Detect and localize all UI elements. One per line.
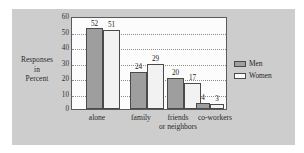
- x-category-friends-line-2: or neighbors: [155, 122, 201, 131]
- x-category-co-workers-line-1: co-workers: [191, 113, 239, 122]
- legend-item-women[interactable]: Women: [234, 71, 290, 81]
- value-label-women-alone: 51: [102, 22, 121, 29]
- y-tick-0: 0: [55, 106, 69, 113]
- bar-men-family[interactable]: [130, 72, 147, 109]
- bar-women-co-workers[interactable]: [210, 104, 224, 109]
- bar-men-co-workers[interactable]: [196, 103, 210, 109]
- bar-women-family[interactable]: [147, 64, 164, 109]
- y-tick-30: 30: [55, 61, 69, 68]
- plot-area: 52 51 24 29 20 17 4 3: [71, 17, 227, 110]
- y-tick-40: 40: [55, 45, 69, 52]
- legend-swatch-women-icon: [234, 73, 246, 79]
- chart-legend: Men Women: [234, 59, 290, 83]
- y-tick-20: 20: [55, 76, 69, 83]
- y-tick-10: 10: [55, 92, 69, 99]
- x-category-alone-line-1: alone: [75, 113, 119, 122]
- bar-men-friends-or-neighbors[interactable]: [167, 78, 184, 109]
- bar-group-co-workers: 4 3: [196, 18, 226, 109]
- y-axis-ticks: 60 50 40 30 20 10 0: [52, 17, 69, 110]
- legend-swatch-men-icon: [234, 61, 246, 67]
- y-tick-60: 60: [55, 14, 69, 21]
- legend-label-women: Women: [249, 72, 272, 80]
- y-tick-50: 50: [55, 30, 69, 37]
- legend-label-men: Men: [249, 60, 263, 68]
- bar-men-alone[interactable]: [86, 28, 103, 109]
- x-category-alone: alone: [75, 113, 119, 122]
- chart-figure: Responses in Percent 60 50 40 30 20 10 0…: [0, 0, 304, 153]
- value-label-women-co-workers: 3: [208, 96, 226, 103]
- value-label-men-family: 24: [129, 64, 148, 71]
- bar-women-alone[interactable]: [103, 30, 120, 109]
- bar-group-family: 24 29: [130, 18, 166, 109]
- value-label-women-family: 29: [146, 56, 165, 63]
- bar-group-alone: 52 51: [86, 18, 122, 109]
- legend-item-men[interactable]: Men: [234, 59, 290, 69]
- x-category-co-workers: co-workers: [191, 113, 239, 122]
